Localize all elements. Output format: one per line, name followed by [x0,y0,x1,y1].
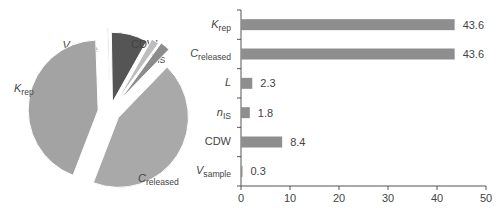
pie-slice-krep [28,40,98,175]
pie-chart: VsampleCDWnISLCreleasedKrep [14,28,188,187]
bar-nis [241,107,250,118]
category-label-vsample: Vsample [196,164,231,179]
x-tick-label: 0 [238,192,244,204]
bar-creleased [241,49,455,60]
bar-value-label: 43.6 [463,19,484,31]
category-label-nis: nIS [217,106,232,121]
bar-l [241,78,252,89]
bar-vsample [241,166,243,177]
category-label-creleased: Creleased [190,47,231,62]
x-tick-label: 10 [284,192,296,204]
bar-value-label: 8.4 [290,136,305,148]
bar-value-label: 2.3 [260,77,275,89]
category-label-l: L [225,76,231,88]
bar-cdw [241,137,282,148]
bar-value-label: 43.6 [463,48,484,60]
pie-slice-creleased [93,67,188,187]
bar-value-label: 0.3 [251,165,266,177]
pie-label-krep: Krep [14,82,34,97]
pie-slice-vsample [107,28,109,98]
x-tick-label: 20 [333,192,345,204]
bar-krep [241,19,455,30]
category-label-krep: Krep [211,18,231,33]
bar-value-label: 1.8 [258,107,273,119]
bar-chart: 0102030405043.6Krep43.6Creleased2.3L1.8n… [190,10,492,204]
x-tick-label: 50 [480,192,492,204]
x-tick-label: 30 [382,192,394,204]
figure: VsampleCDWnISLCreleasedKrep 010203040504… [0,0,501,216]
category-label-cdw: CDW [205,135,232,147]
x-tick-label: 40 [431,192,443,204]
